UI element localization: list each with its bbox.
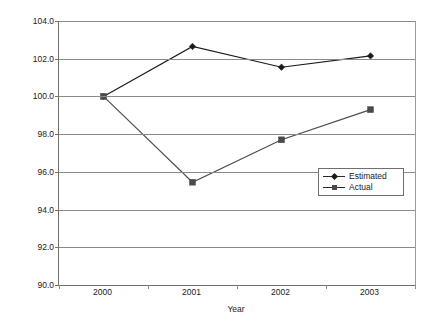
x-tick-label: 2003: [340, 288, 400, 297]
y-tick-label: 90.0: [18, 281, 54, 290]
y-tick-label: 96.0: [18, 168, 54, 177]
x-tick-label: 2001: [162, 288, 222, 297]
gridline: [59, 134, 415, 135]
x-tick-label: 2000: [73, 288, 133, 297]
square-marker-icon: [190, 179, 196, 185]
x-tick-mark: [415, 285, 416, 289]
legend-label: Actual: [345, 182, 373, 193]
y-tick-label: 102.0: [18, 55, 54, 64]
gridline: [59, 96, 415, 97]
y-tick-mark: [55, 134, 59, 135]
chart-legend: Estimated Actual: [318, 168, 404, 196]
diamond-marker-icon: [189, 43, 195, 49]
y-tick-mark: [55, 96, 59, 97]
y-tick-mark: [55, 210, 59, 211]
x-axis-tick-labels: 2000200120022003: [58, 288, 414, 302]
legend-item-actual: Actual: [323, 182, 399, 193]
gridline: [59, 210, 415, 211]
x-axis-title: Year: [58, 304, 414, 314]
gridline: [59, 247, 415, 248]
legend-item-estimated: Estimated: [323, 171, 399, 182]
square-marker-icon: [279, 137, 285, 143]
y-tick-label: 98.0: [18, 130, 54, 139]
square-marker-icon: [323, 182, 345, 193]
y-tick-label: 94.0: [18, 206, 54, 215]
x-tick-label: 2002: [251, 288, 311, 297]
gridline: [59, 21, 415, 22]
y-tick-mark: [55, 59, 59, 60]
y-tick-label: 100.0: [18, 92, 54, 101]
square-marker-icon: [368, 107, 374, 113]
gridline: [59, 59, 415, 60]
plot-area: [58, 21, 416, 285]
y-axis-tick-labels: 90.092.094.096.098.0100.0102.0104.0: [14, 0, 54, 324]
series-layer: [59, 21, 415, 285]
y-tick-mark: [55, 21, 59, 22]
y-tick-mark: [55, 172, 59, 173]
y-tick-label: 92.0: [18, 243, 54, 252]
diamond-marker-icon: [323, 171, 345, 182]
series-line-estimated: [104, 46, 371, 96]
y-tick-mark: [55, 247, 59, 248]
line-chart: 2000 = 100 90.092.094.096.098.0100.0102.…: [0, 0, 429, 324]
diamond-marker-icon: [278, 64, 284, 70]
y-tick-label: 104.0: [18, 17, 54, 26]
legend-label: Estimated: [345, 171, 387, 182]
